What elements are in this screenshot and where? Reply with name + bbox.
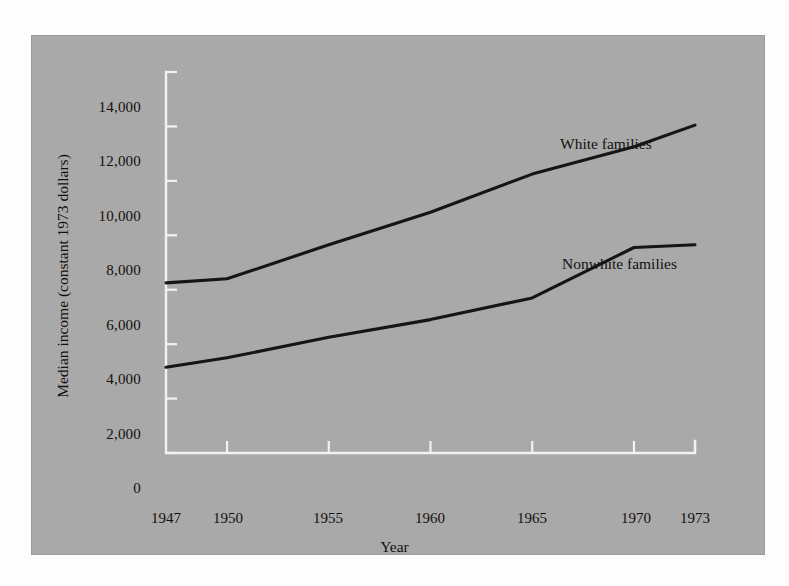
x-axis-title: Year [0,538,789,556]
x-tick-label-1955: 1955 [298,510,358,527]
series-label-nonwhite-families: Nonwhite families [562,255,677,273]
x-tick-label-1970: 1970 [606,510,666,527]
y-tick-label-8000: 8,000 [65,262,141,279]
y-tick-label-2000: 2,000 [65,426,141,443]
series-label-white-families: White families [560,135,652,153]
chart-panel: Median income (constant 1973 dollars) 14… [31,35,765,555]
y-tick-label-10000: 10,000 [65,208,141,225]
x-tick-label-1965: 1965 [502,510,562,527]
y-tick-label-0: 0 [65,480,141,497]
x-tick-label-1950: 1950 [198,510,258,527]
x-tick-label-1973: 1973 [665,510,725,527]
y-tick-label-14000: 14,000 [65,99,141,116]
x-tick-label-1960: 1960 [400,510,460,527]
y-tick-label-4000: 4,000 [65,371,141,388]
y-tick-label-12000: 12,000 [65,153,141,170]
y-tick-label-6000: 6,000 [65,317,141,334]
x-tick-label-1947: 1947 [136,510,196,527]
